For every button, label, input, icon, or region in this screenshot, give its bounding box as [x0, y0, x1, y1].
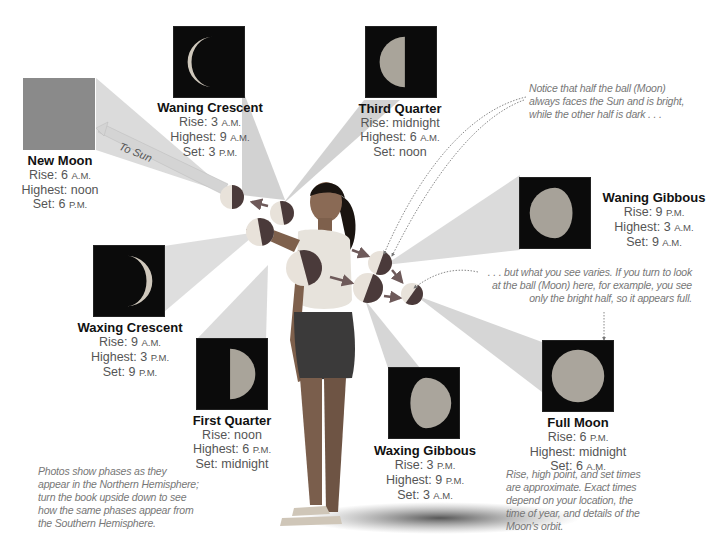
rise-time: Rise: 9 A.M. [66, 335, 194, 350]
moon-third-quarter-icon [380, 37, 405, 88]
phase-name: Waxing Crescent [66, 321, 194, 335]
waning-crescent-photo [173, 26, 245, 98]
rise-time: Rise: 6 P.M. [528, 430, 628, 445]
label-waning-gibbous: Waning Gibbous Rise: 9 P.M. Highest: 3 A… [596, 191, 712, 250]
label-first-quarter: First Quarter Rise: noon Highest: 6 P.M.… [182, 414, 282, 471]
moon-first-quarter-icon [230, 349, 255, 400]
set-time: Set: 9 P.M. [66, 365, 194, 380]
highest-time: Highest: noon [0, 183, 120, 197]
phase-name: New Moon [0, 154, 120, 168]
phase-name: Waxing Gibbous [370, 444, 480, 458]
rise-time: Rise: 9 P.M. [596, 205, 712, 220]
set-time: Set: 3 A.M. [370, 488, 480, 503]
note-half-bright: Notice that half the ball (Moon) always … [529, 82, 699, 121]
note-approximate: Rise, high point, and set times are appr… [506, 468, 648, 533]
highest-time: Highest: 3 P.M. [66, 350, 194, 365]
highest-time: Highest: 9 A.M. [148, 130, 272, 145]
moon-full-icon [552, 350, 605, 403]
highest-time: Highest: 3 A.M. [596, 220, 712, 235]
label-waxing-gibbous: Waxing Gibbous Rise: 3 P.M. Highest: 9 P… [370, 444, 480, 503]
moon-phases-diagram: New Moon Rise: 6 A.M. Highest: noon Set:… [0, 0, 712, 555]
moon-waning-crescent-icon [188, 37, 213, 88]
moon-waning-gibbous-icon [530, 188, 573, 239]
set-time: Set: noon [350, 145, 450, 159]
set-time: Set: 6 P.M. [0, 197, 120, 212]
label-third-quarter: Third Quarter Rise: midnight Highest: 6 … [350, 102, 450, 159]
label-waxing-crescent: Waxing Crescent Rise: 9 A.M. Highest: 3 … [66, 321, 194, 380]
phase-name: First Quarter [182, 414, 282, 428]
rise-time: Rise: midnight [350, 116, 450, 130]
highest-time: Highest: 6 A.M. [350, 130, 450, 145]
new-moon-photo [23, 78, 95, 150]
third-quarter-photo [365, 26, 437, 98]
set-time: Set: 9 A.M. [596, 235, 712, 250]
first-quarter-photo [196, 338, 268, 410]
label-waning-crescent: Waning Crescent Rise: 3 A.M. Highest: 9 … [148, 101, 272, 160]
note-hemisphere: Photos show phases as they appear in the… [38, 465, 200, 530]
label-full-moon: Full Moon Rise: 6 P.M. Highest: midnight… [528, 416, 628, 474]
waxing-crescent-photo [93, 245, 165, 317]
phase-name: Full Moon [528, 416, 628, 430]
full-moon-photo [542, 340, 614, 412]
note-what-you-see: . . . but what you see varies. If you tu… [480, 266, 692, 305]
waxing-gibbous-photo [388, 367, 460, 439]
moon-waxing-crescent-icon [127, 256, 152, 307]
waning-gibbous-photo [519, 177, 591, 249]
phase-name: Waning Gibbous [596, 191, 712, 205]
rise-time: Rise: 3 P.M. [370, 458, 480, 473]
highest-time: Highest: 9 P.M. [370, 473, 480, 488]
highest-time: Highest: 6 P.M. [182, 442, 282, 457]
rise-time: Rise: noon [182, 428, 282, 442]
label-new-moon: New Moon Rise: 6 A.M. Highest: noon Set:… [0, 154, 120, 212]
highest-time: Highest: midnight [528, 445, 628, 459]
phase-name: Waning Crescent [148, 101, 272, 115]
rise-time: Rise: 6 A.M. [0, 168, 120, 183]
set-time: Set: 3 P.M. [148, 145, 272, 160]
moon-waxing-gibbous-icon [410, 378, 451, 429]
phase-name: Third Quarter [350, 102, 450, 116]
rise-time: Rise: 3 A.M. [148, 115, 272, 130]
